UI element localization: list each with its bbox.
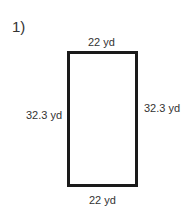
top-side-label: 22 yd [88, 36, 115, 48]
right-side-label: 32.3 yd [144, 102, 180, 114]
left-side-label: 32.3 yd [26, 109, 62, 121]
bottom-side-label: 22 yd [89, 194, 116, 206]
problem-number: 1) [12, 19, 25, 35]
rectangle-shape [67, 51, 138, 187]
